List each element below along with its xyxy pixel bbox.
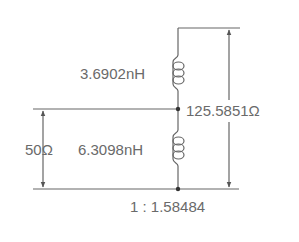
top-inductor [173,55,184,91]
turns-ratio: 1 : 1.58484 [130,199,205,214]
tap-junction-dot [176,107,180,111]
bottom-inductor [173,130,184,166]
bottom-inductor-value: 6.3098nH [78,142,143,157]
source-impedance: 50Ω [25,142,53,157]
top-inductor-value: 3.6902nH [80,66,145,81]
ground-junction-dot [176,187,180,191]
load-impedance: 125.5851Ω [186,103,260,118]
